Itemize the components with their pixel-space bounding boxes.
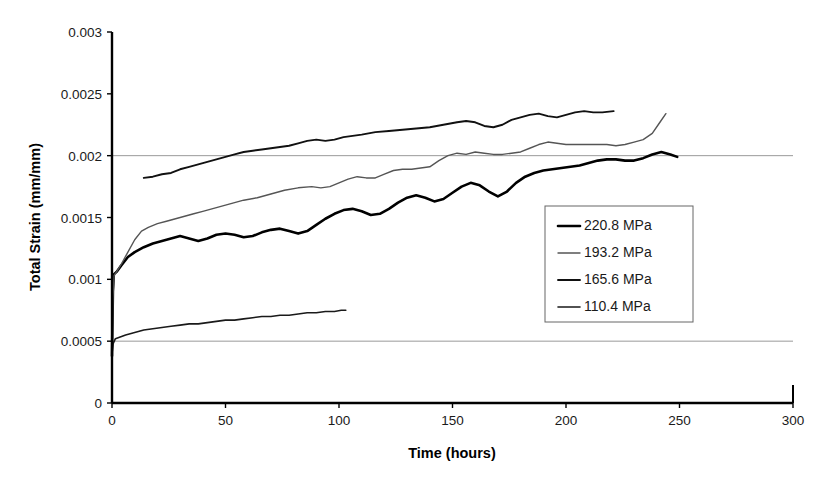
legend-item-label: 220.8 MPa bbox=[584, 217, 652, 233]
x-tick-label: 0 bbox=[108, 413, 116, 428]
y-axis-title: Total Strain (mm/mm) bbox=[27, 143, 43, 291]
y-tick-label: 0 bbox=[94, 396, 102, 411]
legend: 220.8 MPa193.2 MPa165.6 MPa110.4 MPa bbox=[545, 206, 693, 322]
legend-item-label: 193.2 MPa bbox=[584, 244, 652, 260]
x-tick-label: 250 bbox=[668, 413, 691, 428]
x-tick-label: 100 bbox=[328, 413, 351, 428]
y-tick-label: 0.0025 bbox=[61, 87, 102, 102]
x-tick-label: 50 bbox=[218, 413, 233, 428]
x-tick-label: 300 bbox=[782, 413, 805, 428]
creep-strain-chart: 00.00050.0010.00150.0020.00250.003 05010… bbox=[0, 0, 839, 481]
x-tick-label: 150 bbox=[441, 413, 464, 428]
chart-background bbox=[0, 0, 839, 481]
x-axis-title: Time (hours) bbox=[408, 445, 496, 461]
y-tick-label: 0.003 bbox=[68, 25, 102, 40]
y-tick-label: 0.002 bbox=[68, 149, 102, 164]
legend-item-label: 165.6 MPa bbox=[584, 271, 652, 287]
y-tick-label: 0.001 bbox=[68, 272, 102, 287]
legend-item-label: 110.4 MPa bbox=[584, 298, 651, 314]
x-tick-label: 200 bbox=[555, 413, 578, 428]
y-tick-label: 0.0015 bbox=[61, 211, 102, 226]
chart-canvas: 00.00050.0010.00150.0020.00250.003 05010… bbox=[0, 0, 839, 481]
y-tick-label: 0.0005 bbox=[61, 334, 102, 349]
